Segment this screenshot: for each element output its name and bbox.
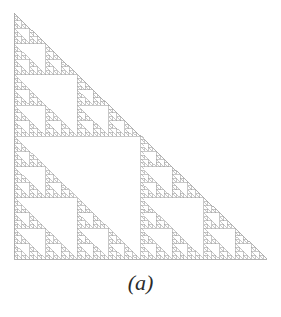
figure-caption-label: (a) [0, 268, 281, 298]
figure-container: (a) [0, 0, 281, 317]
sierpinski-triangle-figure [0, 0, 281, 281]
